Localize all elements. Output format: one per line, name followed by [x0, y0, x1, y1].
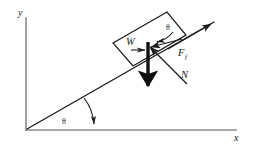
block-angle-label: θ: [166, 23, 170, 32]
figure-canvas: y x θ θ W F: [0, 0, 257, 145]
normal-label: N: [180, 69, 189, 80]
x-axis-label: x: [233, 132, 239, 143]
friction-label-subscript: f: [185, 53, 188, 61]
inclined-plane-diagram: y x θ θ W F: [0, 0, 257, 145]
weight-label: W: [126, 36, 136, 47]
friction-label: F: [177, 47, 185, 58]
incline-angle-label: θ: [62, 117, 66, 126]
y-axis-label: y: [17, 7, 23, 18]
incline-angle-group: θ: [62, 98, 94, 126]
incline-angle-arc: [84, 98, 94, 124]
